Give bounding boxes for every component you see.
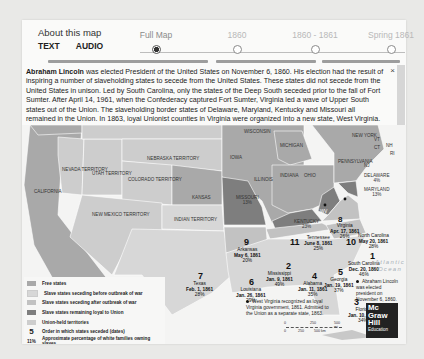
label-illinois: Illinois: [254, 177, 273, 182]
legend-item: Slave states remaining loyal to Union: [27, 308, 162, 318]
label-alabama: AlabamaJan. 11, 186135%: [298, 281, 327, 298]
label-kentucky: Kentucky23%: [294, 219, 319, 230]
order-texas: 7: [198, 271, 203, 281]
order-georgia: 5: [338, 267, 343, 277]
label-wisconsin: Wisconsin: [244, 129, 271, 134]
order-mississippi: 2: [286, 261, 291, 271]
swatch-free: [27, 281, 36, 286]
label-ohio: Ohio: [304, 173, 316, 178]
timeline-label: Full Map: [121, 28, 191, 42]
label-nebraska-territory: Nebraska Territory: [147, 156, 199, 161]
swatch-loyal: [27, 310, 36, 315]
label-vt: VT: [374, 137, 380, 142]
timeline-label: Spring 1861: [356, 28, 424, 42]
swatch-territories: [27, 320, 36, 325]
legend-item: 5Order in which states seceded (dates): [27, 327, 162, 337]
map-scale: 0 250 500 mi 0 250 500 km: [284, 321, 344, 335]
label-mississippi: MississippiJan. 9, 186149%: [266, 271, 293, 288]
radio-selected-icon[interactable]: [152, 45, 161, 54]
timeline-label: 1860: [202, 28, 272, 42]
legend-item: Free states: [27, 279, 162, 289]
label-tennessee: TennesseeJune 8, 186125%: [304, 235, 333, 252]
about-this-map-label: About this map: [38, 27, 101, 38]
radio-icon[interactable]: [233, 45, 242, 54]
label-utah-territory: Utah Territory: [92, 171, 132, 176]
label-new-mexico-territory: New Mexico Territory: [92, 212, 150, 217]
scrollbar[interactable]: [397, 65, 405, 125]
map-legend: Free states Slave states seceding before…: [24, 277, 165, 344]
label-delaware: Delaware4%: [364, 173, 389, 184]
info-lead: Abraham Lincoln: [26, 68, 84, 76]
order-north-carolina: 10: [346, 237, 356, 247]
label-ct: CT: [374, 145, 380, 150]
label-kansas: Kansas: [192, 195, 211, 200]
label-ri: RI: [390, 151, 395, 156]
legend-item: Slave states seceding after outbreak of …: [27, 298, 162, 308]
border-bar: [322, 60, 400, 63]
label-maryland: Maryland13%: [364, 187, 389, 198]
order-alabama: 4: [312, 271, 317, 281]
swatch-before: [27, 290, 38, 297]
label-nj: NJ: [364, 163, 370, 168]
west-virginia-note: West Virginia recognized as loyal Virgin…: [246, 299, 334, 317]
civil-war-secession-map: Nevada Territory Utah Territory Nebraska…: [22, 125, 406, 344]
border-bar: [48, 60, 208, 63]
info-body: was elected President of the United Stat…: [26, 68, 383, 123]
label-michigan: Michigan: [280, 143, 303, 148]
legend-item: Slave states seceding before outbreak of…: [27, 289, 162, 299]
label-texas: TexasFeb. 1, 186128%: [186, 281, 213, 298]
label-atlantic-ocean: Atlantic Ocean: [374, 259, 406, 273]
info-text: Abraham Lincoln was elected President of…: [26, 68, 386, 124]
radio-icon[interactable]: [311, 45, 320, 54]
swatch-after: [27, 300, 36, 305]
map-panel: About this map TEXT AUDIO Full Map 1860 …: [22, 20, 406, 344]
lincoln-note: Abraham Lincoln was elected president on…: [356, 279, 402, 303]
text-mode-button[interactable]: TEXT: [38, 41, 60, 51]
order-louisiana: 6: [249, 277, 254, 287]
timeline-slider[interactable]: Full Map 1860 1860 - 1861 Spring 1861: [140, 28, 405, 58]
bullet-icon: [356, 280, 359, 283]
bullet-icon: [246, 300, 249, 303]
label-missouri: Missouri13%: [236, 195, 259, 206]
label-north-carolina: North CarolinaMay 20, 186128%: [358, 233, 389, 250]
radio-icon[interactable]: [387, 45, 396, 54]
label-indiana: Indiana: [280, 173, 299, 178]
label-arkansas: ArkansasMay 6, 186120%: [234, 247, 261, 264]
timeline-stop-spring-1861[interactable]: Spring 1861: [356, 28, 424, 54]
legend-item: 11%Approximate percentage of white famil…: [27, 337, 162, 344]
audio-mode-button[interactable]: AUDIO: [76, 41, 103, 51]
order-arkansas: 9: [244, 237, 249, 247]
map-top-border: [26, 60, 402, 64]
order-tennessee: 11: [290, 237, 300, 247]
timeline-stop-1860-1861[interactable]: 1860 - 1861: [280, 28, 350, 54]
timeline-label: 1860 - 1861: [280, 28, 350, 42]
label-georgia: GeorgiaJan. 19, 186137%: [324, 277, 354, 294]
legend-item: Union-held territories: [27, 317, 162, 327]
label-california: California: [34, 189, 62, 194]
close-icon[interactable]: ×: [390, 66, 395, 75]
label-colorado-territory: Colorado Territory: [128, 177, 182, 182]
timeline-stop-full-map[interactable]: Full Map: [121, 28, 191, 54]
mcgraw-hill-logo: Mc Graw Hill Education: [366, 303, 398, 338]
label-iowa: Iowa: [230, 155, 242, 160]
label-indian-territory: Indian Territory: [174, 217, 217, 222]
timeline-stop-1860[interactable]: 1860: [202, 28, 272, 54]
label-wv: WV: [320, 209, 327, 214]
mode-switch: TEXT AUDIO: [38, 41, 117, 51]
label-nh: NH: [386, 143, 393, 148]
border-bar: [216, 60, 316, 63]
